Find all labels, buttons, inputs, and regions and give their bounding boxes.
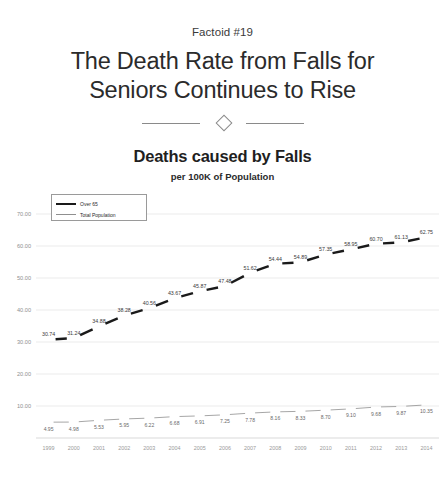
diamond-icon	[215, 115, 232, 132]
headline-line-1: The Death Rate from Falls for	[22, 47, 423, 76]
series-line-segment	[307, 257, 319, 261]
data-point-label: 4.95	[44, 426, 54, 432]
x-axis-tick-label: 2005	[194, 445, 206, 451]
series-line-segment	[207, 288, 218, 290]
data-point-label: 5.95	[119, 423, 129, 429]
divider-bar-left	[142, 123, 200, 124]
series-line-segment	[105, 319, 117, 324]
infographic-header: Factoid #19 The Death Rate from Falls fo…	[0, 0, 445, 104]
data-point-label: 5.53	[94, 424, 104, 430]
data-point-label: 45.87	[193, 283, 206, 289]
y-axis-tick-label: 40.00	[17, 307, 31, 313]
series-line-segment	[333, 251, 344, 253]
divider-bar-right	[246, 123, 304, 124]
data-point-label: 9.68	[371, 411, 381, 417]
x-axis-tick-label: 2013	[395, 445, 407, 451]
legend-swatch-over-65	[56, 203, 76, 205]
data-point-label: 9.87	[396, 410, 406, 416]
series-line-segment	[305, 411, 320, 412]
data-point-label: 8.33	[296, 415, 306, 421]
series-line-segment	[230, 414, 245, 415]
series-line-segment	[104, 420, 119, 421]
series-line-segment	[181, 293, 193, 296]
y-axis-tick-label: 50.00	[17, 275, 31, 281]
factoid-number: Factoid #19	[0, 26, 445, 38]
x-axis-tick-label: 1999	[43, 445, 55, 451]
series-line-segment	[282, 263, 293, 264]
x-axis-tick-label: 2001	[93, 445, 105, 451]
x-axis-tick-label: 2006	[219, 445, 231, 451]
data-point-label: 54.89	[294, 254, 307, 260]
data-point-label: 8.16	[270, 416, 280, 422]
data-point-label: 47.48	[218, 278, 231, 284]
series-line-segment	[255, 412, 270, 413]
data-point-label: 9.10	[346, 413, 356, 419]
series-line-segment	[129, 419, 144, 420]
page-title: The Death Rate from Falls for Seniors Co…	[0, 47, 445, 104]
data-point-label: 43.67	[168, 290, 181, 296]
data-point-label: 6.91	[195, 420, 205, 426]
legend-item-total-population: Total Population	[56, 209, 142, 220]
series-line-segment	[331, 409, 346, 410]
series-line-segment	[79, 421, 94, 422]
x-axis-tick-label: 2014	[420, 445, 432, 451]
y-axis-tick-label: 20.00	[17, 371, 31, 377]
data-point-label: 31.24	[67, 330, 80, 336]
chart-subtitle: per 100K of Population	[0, 171, 445, 182]
series-line-segment	[231, 276, 244, 283]
x-axis-tick-label: 2002	[118, 445, 130, 451]
data-point-label: 54.44	[269, 256, 282, 262]
series-line-segment	[257, 266, 269, 270]
y-axis-tick-label: 30.00	[17, 339, 31, 345]
legend-label-over-65: Over 65	[80, 201, 98, 207]
y-axis-tick-label: 70.00	[17, 211, 31, 217]
legend-item-over-65: Over 65	[56, 198, 142, 209]
chart-legend: Over 65 Total Population	[51, 194, 147, 221]
x-axis-tick-label: 2000	[68, 445, 80, 451]
data-point-label: 8.70	[321, 414, 331, 420]
series-line-segment	[154, 417, 169, 418]
y-axis-tick-label: 10.00	[17, 403, 31, 409]
series-line-segment	[383, 243, 394, 244]
series-line-segment	[205, 415, 220, 416]
series-line-segment	[80, 330, 92, 336]
series-line-segment	[408, 239, 419, 241]
x-axis-tick-label: 2010	[320, 445, 332, 451]
data-point-label: 6.68	[170, 420, 180, 426]
y-axis-tick-label: 60.00	[17, 243, 31, 249]
chart-heading-block: Deaths caused by Falls per 100K of Popul…	[0, 147, 445, 182]
data-point-label: 6.22	[144, 422, 154, 428]
legend-swatch-total-population	[56, 214, 76, 215]
x-axis-tick-label: 2011	[345, 445, 357, 451]
x-axis-tick-label: 2003	[143, 445, 155, 451]
series-line-segment	[156, 301, 168, 306]
line-chart-svg: 10.0020.0030.0040.0050.0060.0070.0019992…	[0, 192, 445, 480]
x-axis-tick-label: 2007	[244, 445, 256, 451]
x-axis-tick-label: 2004	[169, 445, 181, 451]
data-point-label: 40.56	[143, 300, 156, 306]
x-axis-tick-label: 2009	[294, 445, 306, 451]
data-point-label: 58.95	[344, 241, 357, 247]
diamond-divider-icon	[142, 117, 304, 131]
chart-plot-area: 10.0020.0030.0040.0050.0060.0070.0019992…	[0, 192, 445, 480]
data-point-label: 57.35	[319, 247, 332, 253]
data-point-label: 7.25	[220, 419, 230, 425]
series-line-segment	[131, 310, 143, 313]
data-point-label: 62.75	[420, 229, 433, 235]
data-point-label: 4.98	[69, 426, 79, 432]
data-point-label: 34.88	[92, 318, 105, 324]
data-point-label: 60.70	[369, 236, 382, 242]
data-point-label: 61.13	[395, 234, 408, 240]
legend-label-total-population: Total Population	[80, 212, 116, 218]
data-point-label: 10.35	[420, 409, 433, 415]
series-line-segment	[356, 408, 371, 409]
data-point-label: 7.78	[245, 417, 255, 423]
chart-title: Deaths caused by Falls	[0, 147, 445, 166]
data-point-label: 51.62	[243, 265, 256, 271]
x-axis-tick-label: 2012	[370, 445, 382, 451]
x-axis-tick-label: 2008	[269, 445, 281, 451]
data-point-label: 38.28	[118, 308, 131, 314]
series-line-segment	[56, 339, 67, 340]
headline-line-2: Seniors Continues to Rise	[22, 76, 423, 105]
data-point-label: 30.74	[42, 332, 55, 338]
